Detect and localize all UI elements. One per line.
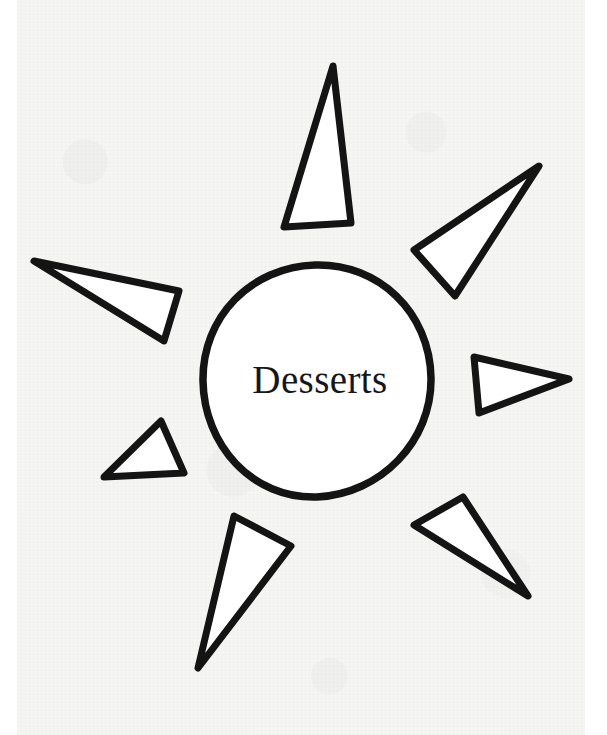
ray-top[interactable] xyxy=(284,66,351,227)
hub-label: Desserts xyxy=(205,358,435,402)
ray-right[interactable] xyxy=(474,357,569,413)
ray-bottom-right[interactable] xyxy=(414,497,528,596)
worksheet-canvas: Desserts xyxy=(0,0,607,735)
ray-left[interactable] xyxy=(34,261,179,341)
ray-top-right[interactable] xyxy=(414,166,539,296)
ray-bottom-left[interactable] xyxy=(104,421,184,477)
ray-bottom[interactable] xyxy=(198,516,291,668)
